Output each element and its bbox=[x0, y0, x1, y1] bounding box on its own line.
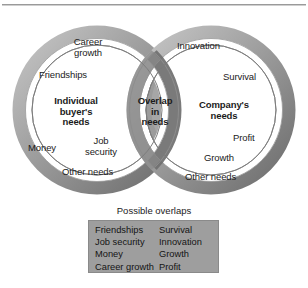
legend-column-right: Survival Innovation Growth Profit bbox=[159, 224, 202, 273]
right-item-innovation: Innovation bbox=[177, 41, 220, 52]
left-circle-heading: Individual buyer's needs bbox=[38, 96, 114, 128]
legend-item: Job security bbox=[95, 236, 154, 248]
legend-title: Possible overlaps bbox=[0, 205, 308, 216]
right-circle-heading: Company's needs bbox=[186, 100, 262, 121]
legend-item: Friendships bbox=[95, 224, 154, 236]
legend-item: Growth bbox=[159, 248, 202, 260]
overlap-heading: Overlap in needs bbox=[129, 96, 181, 128]
legend-column-left: Friendships Job security Money Career gr… bbox=[95, 224, 154, 273]
right-item-growth: Growth bbox=[204, 153, 234, 164]
right-item-other-needs: Other needs bbox=[185, 172, 236, 183]
venn-diagram-figure: Career growth Friendships Individual buy… bbox=[0, 0, 308, 288]
legend-item: Money bbox=[95, 248, 154, 260]
left-item-job-security: Job security bbox=[78, 136, 124, 157]
left-item-career-growth: Career growth bbox=[62, 37, 114, 58]
legend-item: Profit bbox=[159, 261, 202, 273]
right-item-profit: Profit bbox=[233, 133, 255, 144]
legend-item: Survival bbox=[159, 224, 202, 236]
left-item-money: Money bbox=[28, 143, 56, 154]
left-item-friendships: Friendships bbox=[39, 70, 87, 81]
possible-overlaps-box: Friendships Job security Money Career gr… bbox=[88, 220, 219, 273]
legend-item: Innovation bbox=[159, 236, 202, 248]
legend-item: Career growth bbox=[95, 261, 154, 273]
left-item-other-needs: Other needs bbox=[62, 167, 113, 178]
right-item-survival: Survival bbox=[223, 72, 256, 83]
